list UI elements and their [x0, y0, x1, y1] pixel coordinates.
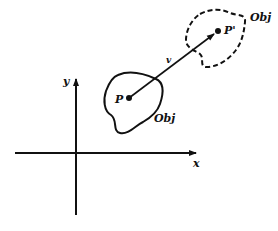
point-p-prime-label: P' — [223, 24, 236, 37]
original-object: P Obj — [104, 73, 175, 134]
translated-object-outline — [186, 10, 245, 67]
coordinate-axes: y x — [15, 75, 200, 215]
translation-vector: v — [129, 34, 214, 98]
y-axis-label: y — [62, 75, 71, 88]
translated-object-label: Obj — [250, 11, 271, 24]
original-object-label: Obj — [154, 112, 175, 125]
translated-object: P' Obj — [186, 10, 271, 67]
vector-label: v — [166, 55, 172, 65]
point-p-prime — [215, 28, 221, 34]
vector-arrow — [129, 34, 214, 98]
point-p-label: P — [114, 93, 124, 106]
x-axis-label: x — [192, 157, 200, 170]
translation-diagram: y x P Obj v P' Obj — [0, 0, 278, 231]
